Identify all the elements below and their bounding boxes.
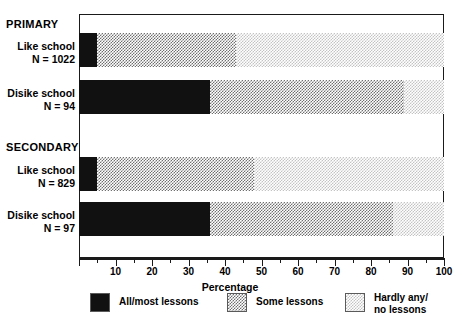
x-tick-70 xyxy=(335,258,336,266)
legend-label-some-lessons: Some lessons xyxy=(256,293,323,308)
chart-figure: PRIMARY SECONDARY Like school N = 1022 D… xyxy=(0,0,460,329)
legend: All/most lessons Some lessons Hardly any… xyxy=(0,291,460,327)
bar-primary-like xyxy=(79,33,444,67)
bar-segment-secondary-like-2 xyxy=(254,157,444,191)
x-tick-30 xyxy=(189,258,190,266)
x-tick-20 xyxy=(152,258,153,266)
x-tick-75 xyxy=(353,258,354,263)
legend-label-hardly-any-no-lessons: Hardly any/ no lessons xyxy=(374,289,428,315)
x-tick-15 xyxy=(134,258,135,263)
legend-swatch-hardly-any-no-lessons xyxy=(345,293,365,312)
x-tick-0 xyxy=(79,258,80,266)
legend-swatch-all-most-lessons xyxy=(90,293,110,312)
legend-label-all-most-lessons: All/most lessons xyxy=(119,293,198,308)
x-tick-50 xyxy=(262,258,263,266)
bar-segment-primary-dislike-0 xyxy=(79,80,210,114)
row-label-secondary-like: Like school N = 829 xyxy=(0,164,75,190)
x-tick-95 xyxy=(426,258,427,263)
x-tick-80 xyxy=(371,258,372,266)
legend-swatch-some-lessons xyxy=(227,293,247,312)
row-label-name: Disike school xyxy=(0,209,75,222)
x-tick-25 xyxy=(170,258,171,263)
row-label-primary-like: Like school N = 1022 xyxy=(0,40,75,66)
bar-secondary-like xyxy=(79,157,444,191)
x-tick-60 xyxy=(298,258,299,266)
bar-segment-primary-like-2 xyxy=(236,33,444,67)
x-tick-label-20: 20 xyxy=(146,266,157,277)
row-label-primary-dislike: Disike school N = 94 xyxy=(0,87,75,113)
x-tick-label-70: 70 xyxy=(329,266,340,277)
legend-item-hardly-any-no-lessons: Hardly any/ no lessons xyxy=(345,289,428,315)
row-label-name: Like school xyxy=(0,40,75,53)
x-tick-35 xyxy=(207,258,208,263)
bar-segment-secondary-dislike-0 xyxy=(79,202,210,236)
x-tick-90 xyxy=(408,258,409,266)
bar-segment-secondary-like-0 xyxy=(79,157,97,191)
group-header-secondary: SECONDARY xyxy=(0,141,74,153)
bar-secondary-dislike xyxy=(79,202,444,236)
x-tick-10 xyxy=(116,258,117,266)
x-tick-85 xyxy=(389,258,390,263)
x-tick-label-100: 100 xyxy=(436,266,453,277)
x-tick-label-40: 40 xyxy=(219,266,230,277)
bar-segment-secondary-dislike-1 xyxy=(210,202,393,236)
x-tick-100 xyxy=(444,258,445,266)
x-tick-label-80: 80 xyxy=(365,266,376,277)
x-tick-label-60: 60 xyxy=(292,266,303,277)
x-tick-label-50: 50 xyxy=(256,266,267,277)
x-tick-45 xyxy=(243,258,244,263)
x-tick-5 xyxy=(97,258,98,263)
x-tick-label-30: 30 xyxy=(183,266,194,277)
bar-segment-secondary-like-1 xyxy=(97,157,254,191)
bar-segment-primary-like-1 xyxy=(97,33,236,67)
row-label-n: N = 94 xyxy=(0,100,75,113)
row-label-n: N = 829 xyxy=(0,177,75,190)
bar-segment-primary-dislike-1 xyxy=(210,80,403,114)
row-label-n: N = 1022 xyxy=(0,53,75,66)
legend-item-some-lessons: Some lessons xyxy=(227,293,323,312)
bar-segment-primary-like-0 xyxy=(79,33,97,67)
x-tick-40 xyxy=(225,258,226,266)
x-tick-label-90: 90 xyxy=(402,266,413,277)
row-label-secondary-dislike: Disike school N = 97 xyxy=(0,209,75,235)
x-tick-65 xyxy=(316,258,317,263)
group-header-primary: PRIMARY xyxy=(0,18,74,30)
row-label-name: Like school xyxy=(0,164,75,177)
row-label-name: Disike school xyxy=(0,87,75,100)
x-tick-label-10: 10 xyxy=(110,266,121,277)
row-label-n: N = 97 xyxy=(0,222,75,235)
bar-segment-secondary-dislike-2 xyxy=(393,202,444,236)
legend-item-all-most-lessons: All/most lessons xyxy=(90,293,198,312)
bar-segment-primary-dislike-2 xyxy=(404,80,444,114)
x-tick-55 xyxy=(280,258,281,263)
bar-primary-dislike xyxy=(79,80,444,114)
